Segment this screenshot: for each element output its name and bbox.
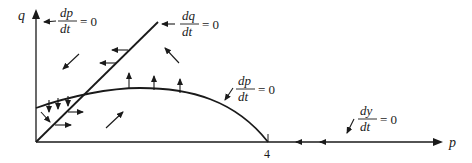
phase-diagram: q p 4 (0, 0, 472, 163)
q-axis (32, 9, 40, 142)
svg-text:= 0: = 0 (202, 17, 219, 32)
dp-dt-nullcline-curve (36, 88, 268, 142)
svg-text:= 0: = 0 (80, 14, 97, 29)
svg-text:= 0: = 0 (380, 112, 397, 127)
p-axis-arrowhead-icon (433, 138, 443, 146)
q-axis-arrowhead-icon (32, 9, 40, 19)
q-axis-label: q (18, 8, 25, 23)
svg-text:dy: dy (360, 103, 373, 118)
svg-text:dt: dt (238, 89, 249, 104)
svg-text:dp: dp (60, 5, 74, 20)
direction-field-arrows (41, 21, 354, 142)
p-axis (36, 138, 443, 146)
dq-dt-nullcline (36, 22, 158, 142)
label-dp-dt-curve: dp dt = 0 (236, 73, 275, 104)
svg-text:dt: dt (60, 21, 71, 36)
label-dq-dt: dq dt = 0 (180, 8, 219, 39)
svg-text:dq: dq (182, 8, 196, 23)
p-axis-label: p (448, 135, 456, 150)
x-tick-4: 4 (264, 147, 270, 161)
svg-text:dp: dp (238, 73, 252, 88)
svg-text:= 0: = 0 (258, 82, 275, 97)
label-dy-dt-p-axis: dy dt = 0 (358, 103, 397, 134)
label-dp-dt-q-axis: dp dt = 0 (58, 5, 97, 36)
svg-text:dt: dt (182, 24, 193, 39)
svg-text:dt: dt (360, 119, 371, 134)
